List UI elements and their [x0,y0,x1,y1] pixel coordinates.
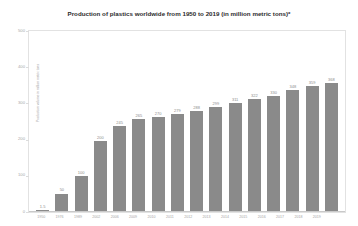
x-axis-labels: 1950197619892002200620092010201120122013… [32,215,326,219]
bar-rect[interactable] [229,103,242,211]
x-axis-tick-label: 2010 [142,215,160,219]
bar-column[interactable]: 265 [129,39,148,211]
bar-rect[interactable] [286,90,299,211]
bar-column[interactable]: 368 [322,39,341,211]
y-axis-tick-mark [26,103,29,104]
x-axis-tick-label: 2012 [179,215,197,219]
bar-value-label: 288 [193,106,200,110]
bar-rect[interactable] [55,194,68,211]
y-axis-tick-mark [26,176,29,177]
bar-value-label: 265 [136,114,143,118]
bar-column[interactable]: 311 [226,39,245,211]
bar-value-label: 279 [174,109,181,113]
y-axis-tick-label: 500 [9,28,25,33]
y-axis-tick-label: 400 [9,64,25,69]
x-axis-tick-label: 2002 [87,215,105,219]
bar-value-label: 270 [155,112,162,116]
x-axis-tick-label: 2015 [234,215,252,219]
bar-value-label: 368 [328,78,335,82]
bar-value-label: 245 [116,121,123,125]
x-axis-tick-label: 2017 [271,215,289,219]
bar-rect[interactable] [171,114,184,211]
x-axis-tick-label: 2014 [216,215,234,219]
x-axis-tick-label: 2009 [124,215,142,219]
x-axis-tick-label: 2011 [161,215,179,219]
bar-value-label: 100 [78,171,85,175]
bar-value-label: 348 [290,85,297,89]
bar-rect[interactable] [132,119,145,211]
bar-rect[interactable] [306,86,319,211]
bar-value-label: 299 [213,102,220,106]
x-axis-tick-label: 2016 [253,215,271,219]
bar-value-label: 311 [232,98,238,102]
y-axis-tick-label: 0 [9,209,25,214]
bar-rect[interactable] [36,210,49,211]
x-axis-tick-label: 2013 [197,215,215,219]
bar-column[interactable]: 322 [245,39,264,211]
bar-column[interactable]: 330 [264,39,283,211]
page-title: Production of plastics worldwide from 19… [0,10,358,17]
y-axis-tick-mark [26,67,29,68]
bar-rect[interactable] [267,96,280,211]
bar-column[interactable]: 245 [110,39,129,211]
bar-value-label: 1.5 [40,205,46,209]
bar-rect[interactable] [152,117,165,211]
x-axis-tick-label: 1950 [32,215,50,219]
y-axis-tick-label: 200 [9,136,25,141]
x-axis-tick-label: 2006 [106,215,124,219]
x-axis-tick-label: 1976 [50,215,68,219]
bar-column[interactable]: 359 [303,39,322,211]
bar-value-label: 330 [270,91,277,95]
y-axis-tick-mark [26,31,29,32]
bar-rect[interactable] [113,126,126,211]
y-axis-tick-label: 300 [9,100,25,105]
bar-value-label: 359 [309,81,316,85]
bar-series: 1.55010020024526527027928829931132233034… [33,39,341,211]
bar-value-label: 322 [251,94,258,98]
x-axis-tick-label: 2019 [308,215,326,219]
bar-column[interactable]: 299 [206,39,225,211]
bar-column[interactable]: 1.5 [33,39,52,211]
bar-rect[interactable] [209,107,222,211]
x-axis-line [29,211,345,212]
bar-rect[interactable] [75,176,88,211]
x-axis-tick-label: 2018 [289,215,307,219]
bar-column[interactable]: 270 [149,39,168,211]
y-axis-tick-label: 100 [9,172,25,177]
bar-value-label: 50 [60,188,64,192]
bar-rect[interactable] [94,141,107,211]
bar-column[interactable]: 348 [283,39,302,211]
bar-value-label: 200 [97,136,104,140]
y-axis-tick-mark [26,140,29,141]
chart-page: Production of plastics worldwide from 19… [0,0,358,226]
bar-rect[interactable] [190,111,203,211]
x-axis-tick-label: 1989 [69,215,87,219]
bar-column[interactable]: 200 [91,39,110,211]
y-axis-tick-mark [26,212,29,213]
bar-column[interactable]: 279 [168,39,187,211]
bar-column[interactable]: 50 [52,39,71,211]
plot-area: Production volume in million metric tons… [28,30,346,213]
bar-rect[interactable] [248,99,261,211]
bar-column[interactable]: 100 [72,39,91,211]
bar-column[interactable]: 288 [187,39,206,211]
bar-rect[interactable] [325,83,338,211]
